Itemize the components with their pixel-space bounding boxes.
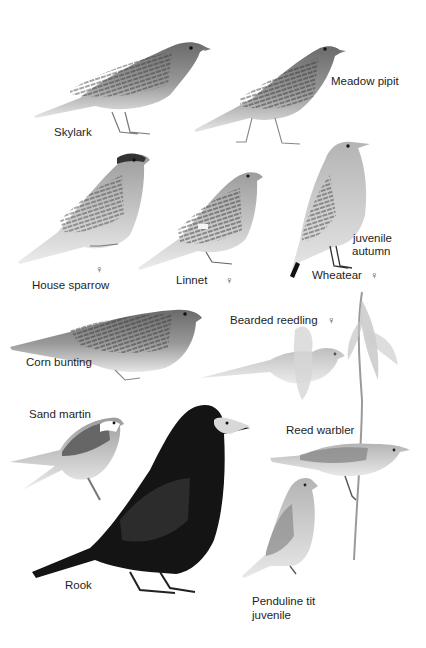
label-linnet: Linnet	[176, 274, 207, 287]
female-symbol-linnet: ♀	[225, 274, 233, 286]
label-penduline-tit-note: juvenile	[252, 609, 291, 622]
sand-martin-illustration	[10, 417, 124, 500]
label-penduline-tit: Penduline tit	[252, 595, 315, 608]
label-bearded-reedling: Bearded reedling	[230, 314, 318, 327]
field-guide-plate: Skylark Meadow pipit ♀ House sparrow Lin…	[0, 0, 426, 648]
label-wheatear-note-1: juvenile	[353, 232, 392, 245]
label-skylark: Skylark	[54, 126, 92, 139]
penduline-tit-illustration	[242, 478, 318, 578]
label-wheatear-note-2: autumn	[352, 245, 390, 258]
label-reed-warbler: Reed warbler	[286, 424, 354, 437]
bearded-reedling-illustration	[200, 326, 345, 400]
label-rook: Rook	[65, 579, 92, 592]
label-corn-bunting: Corn bunting	[26, 356, 92, 369]
corn-bunting-illustration	[10, 310, 202, 380]
meadow-pipit-illustration	[194, 46, 346, 144]
female-symbol-wheatear: ♀	[370, 269, 378, 281]
linnet-illustration	[138, 172, 263, 270]
bird-illustrations	[0, 0, 426, 648]
rook-illustration	[32, 405, 250, 593]
reed-illustration	[348, 292, 398, 560]
house-sparrow-illustration	[18, 154, 150, 265]
label-wheatear: Wheatear	[312, 269, 362, 282]
female-symbol-house-sparrow: ♀	[95, 263, 103, 275]
label-house-sparrow: House sparrow	[32, 279, 109, 292]
label-meadow-pipit: Meadow pipit	[331, 75, 399, 88]
label-sand-martin: Sand martin	[29, 408, 91, 421]
female-symbol-bearded-reedling: ♀	[327, 314, 335, 326]
skylark-illustration	[34, 42, 211, 134]
